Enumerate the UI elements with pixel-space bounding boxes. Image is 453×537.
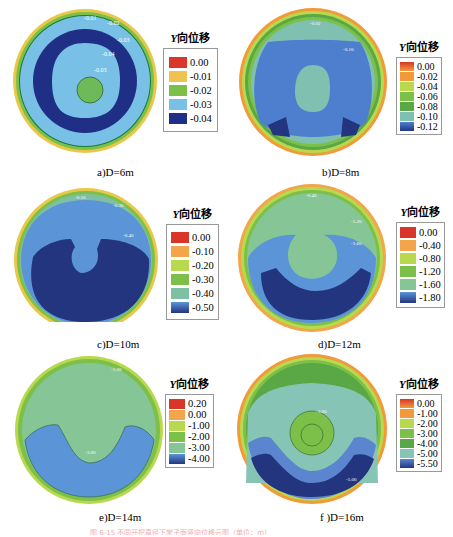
svg-text:-0.40: -0.40 xyxy=(123,233,134,238)
caption-b: b)D=8m xyxy=(322,166,359,178)
svg-text:-0.03: -0.03 xyxy=(94,67,107,73)
svg-text:-0.03: -0.03 xyxy=(117,37,130,43)
svg-text:-0.40: -0.40 xyxy=(306,193,317,198)
svg-text:-0.10: -0.10 xyxy=(75,195,86,200)
legend-b: Y向位移 0.00 -0.02 -0.04 -0.06 -0.08 -0.10 … xyxy=(396,38,442,135)
legend-c: Y向位移 0.00 -0.10 -0.20 -0.30 -0.40 -0.50 xyxy=(166,205,219,320)
contour-plot-b: -0.02 -0.10 xyxy=(238,7,388,157)
contour-plot-d: -0.40 -1.20 -1.60 xyxy=(236,183,388,333)
contour-plot-c: -0.10 -0.30 -0.40 xyxy=(13,187,159,322)
caption-a: a)D=6m xyxy=(97,166,134,178)
caption-f: f )D=16m xyxy=(320,511,364,523)
svg-text:-1.60: -1.60 xyxy=(351,241,362,246)
legend-d: Y向位移 0.00 -0.40 -0.80 -1.20 -1.60 -1.80 xyxy=(396,203,445,308)
svg-text:-3.00: -3.00 xyxy=(316,409,327,414)
caption-e: e)D=14m xyxy=(99,511,141,523)
legend-a: Y向位移 0.00 -0.01 -0.02 -0.03 -0.04 xyxy=(163,29,218,132)
legend-e: Y向位移 0.20 0.00 -1.00 -2.00 -3.00 -4.00 xyxy=(165,375,214,468)
svg-text:-3.00: -3.00 xyxy=(85,450,96,455)
legend-box: 0.00 -0.01 -0.02 -0.03 -0.04 xyxy=(163,48,218,132)
svg-text:-1.00: -1.00 xyxy=(111,367,122,372)
legend-f: Y向位移 0.00 -1.00 -2.00 -3.00 -4.00 -5.00 … xyxy=(396,375,442,472)
svg-text:-0.04: -0.04 xyxy=(102,51,115,57)
svg-text:-1.20: -1.20 xyxy=(351,219,362,224)
caption-d: d)D=12m xyxy=(318,338,361,350)
caption-c: c)D=10m xyxy=(97,338,139,350)
legend-title: Y向位移 xyxy=(163,29,218,45)
svg-text:-0.01: -0.01 xyxy=(84,15,97,21)
contour-plot-f: -3.00 -5.00 xyxy=(236,353,388,505)
svg-text:-0.30: -0.30 xyxy=(113,203,124,208)
svg-text:-0.02: -0.02 xyxy=(107,20,120,26)
svg-text:-5.00: -5.00 xyxy=(346,477,357,482)
figure-caption: 图 6-15 不同开挖直径下掌子面竖向位移云图（单位：m） xyxy=(90,527,370,535)
svg-text:-0.02: -0.02 xyxy=(310,21,321,26)
contour-plot-a: -0.01 -0.02 -0.03 -0.04 -0.03 xyxy=(12,8,158,154)
contour-plot-e: -3.00 -1.00 xyxy=(13,355,165,505)
svg-text:-0.10: -0.10 xyxy=(343,47,354,52)
